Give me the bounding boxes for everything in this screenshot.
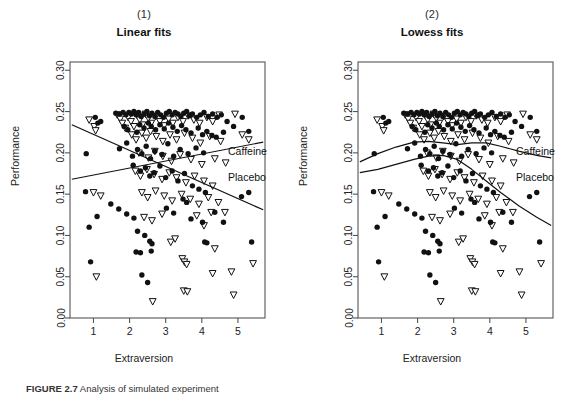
data-point-placebo — [471, 180, 478, 186]
data-point-caffeine — [124, 140, 129, 145]
data-point-caffeine — [203, 190, 208, 195]
data-point-placebo — [437, 218, 444, 224]
data-point-placebo — [196, 201, 203, 207]
data-point-caffeine — [214, 134, 219, 139]
data-point-caffeine — [137, 122, 142, 127]
data-point-placebo — [193, 213, 200, 219]
data-point-placebo — [209, 119, 216, 125]
data-point-caffeine — [488, 132, 493, 137]
data-point-caffeine — [185, 151, 190, 156]
data-point-caffeine — [159, 152, 164, 157]
data-point-caffeine — [149, 124, 154, 129]
data-point-placebo — [137, 173, 144, 179]
data-point-placebo — [476, 157, 483, 163]
y-tick-label: 0.20 — [56, 143, 67, 163]
data-point-caffeine — [183, 127, 188, 132]
data-point-caffeine — [512, 119, 517, 124]
data-point-caffeine — [507, 112, 512, 117]
data-point-caffeine — [94, 214, 99, 219]
data-point-caffeine — [131, 215, 136, 220]
data-point-placebo — [520, 111, 527, 117]
data-point-placebo — [533, 137, 540, 143]
panel-2-plot: 0.000.050.100.150.200.250.3012345Caffein… — [288, 0, 576, 372]
data-point-caffeine — [153, 127, 158, 132]
data-point-caffeine — [204, 129, 209, 134]
lowess-curve-placebo — [360, 155, 551, 225]
y-tick-label: 0.10 — [56, 225, 67, 245]
figure-caption: FIGURE 2.7 Analysis of simulated experim… — [0, 383, 576, 394]
data-point-caffeine — [116, 206, 121, 211]
data-point-caffeine — [451, 175, 456, 180]
data-point-caffeine — [452, 205, 457, 210]
data-point-placebo — [159, 211, 166, 217]
data-point-caffeine — [164, 205, 169, 210]
data-point-caffeine — [188, 130, 193, 135]
data-point-caffeine — [481, 145, 486, 150]
figure-caption-text: Analysis of simulated experiment — [78, 383, 219, 394]
data-point-caffeine — [396, 201, 401, 206]
data-point-placebo — [493, 195, 500, 201]
data-point-caffeine — [383, 120, 388, 125]
data-point-caffeine — [423, 229, 428, 234]
data-point-caffeine — [502, 134, 507, 139]
panel-1-plot: 0.000.050.100.150.200.250.3012345Caffein… — [0, 0, 288, 372]
data-point-placebo — [486, 162, 493, 168]
data-point-caffeine — [430, 233, 435, 238]
series-label-caffeine: Caffeine — [228, 145, 267, 157]
data-point-caffeine — [141, 125, 146, 130]
figure-caption-label: FIGURE 2.7 — [26, 383, 78, 394]
data-point-caffeine — [88, 259, 93, 264]
data-point-caffeine — [500, 210, 505, 215]
data-point-caffeine — [419, 215, 424, 220]
data-point-placebo — [425, 173, 432, 179]
data-point-caffeine — [463, 178, 468, 183]
y-tick-label: 0.15 — [344, 184, 355, 204]
data-point-placebo — [97, 193, 104, 199]
data-point-placebo — [222, 209, 229, 215]
data-point-placebo — [441, 133, 448, 139]
data-point-caffeine — [492, 240, 497, 245]
plot-box — [70, 62, 265, 318]
data-point-placebo — [465, 152, 472, 158]
data-point-placebo — [477, 135, 484, 141]
data-point-caffeine — [439, 170, 444, 175]
data-point-placebo — [429, 214, 436, 220]
data-point-caffeine — [142, 233, 147, 238]
data-point-placebo — [149, 299, 156, 305]
data-point-caffeine — [459, 153, 464, 158]
data-point-placebo — [497, 183, 504, 189]
data-point-caffeine — [212, 210, 217, 215]
data-point-caffeine — [249, 239, 254, 244]
x-tick-label: 4 — [199, 325, 205, 337]
data-point-caffeine — [371, 189, 376, 194]
data-point-placebo — [177, 152, 184, 158]
plot-box — [358, 62, 553, 318]
data-point-caffeine — [465, 147, 470, 152]
data-point-caffeine — [231, 124, 236, 129]
data-point-caffeine — [534, 129, 539, 134]
data-point-placebo — [131, 124, 138, 130]
x-tick-label: 4 — [487, 325, 493, 337]
data-point-caffeine — [489, 110, 494, 115]
data-point-caffeine — [200, 132, 205, 137]
data-point-placebo — [86, 117, 93, 123]
data-point-caffeine — [204, 240, 209, 245]
data-point-caffeine — [427, 272, 432, 277]
x-tick-label: 5 — [235, 325, 241, 337]
data-point-placebo — [222, 160, 229, 166]
data-point-caffeine — [195, 125, 200, 130]
data-point-placebo — [188, 157, 195, 163]
data-point-caffeine — [489, 150, 494, 155]
y-tick-label: 0.30 — [56, 60, 67, 80]
data-point-caffeine — [201, 110, 206, 115]
data-point-caffeine — [135, 229, 140, 234]
data-point-placebo — [205, 195, 212, 201]
data-point-caffeine — [84, 151, 89, 156]
data-point-caffeine — [177, 147, 182, 152]
data-point-caffeine — [457, 168, 462, 173]
data-point-caffeine — [528, 115, 533, 120]
data-point-caffeine — [437, 248, 442, 253]
data-point-placebo — [183, 180, 190, 186]
data-point-caffeine — [124, 211, 129, 216]
data-point-caffeine — [157, 122, 162, 127]
